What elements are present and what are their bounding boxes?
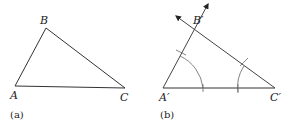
arc-angle-a: [180, 56, 203, 88]
caption-b: (b): [160, 109, 174, 120]
vertex-label-b: B: [39, 14, 48, 27]
vertex-label-a: A: [9, 89, 18, 102]
vertex-label-c: C: [120, 91, 129, 104]
triangle-abc: [15, 28, 125, 88]
vertex-label-a-prime: A′: [158, 91, 170, 104]
arc-angle-c: [238, 66, 244, 93]
vertex-label-b-prime: B′: [192, 14, 204, 27]
triangle-construction-diagram: B A C (a) B′ A′ C′ (b): [0, 0, 292, 126]
triangle-construction: [163, 4, 275, 93]
caption-a: (a): [10, 109, 24, 120]
vertex-label-c-prime: C′: [270, 91, 281, 104]
ray-from-c-prime: [176, 16, 275, 88]
